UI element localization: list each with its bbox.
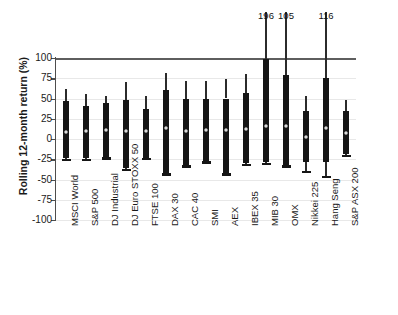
upper-whisker (345, 100, 346, 111)
minimum-cap (342, 155, 351, 157)
x-axis-label: Nikkei 225 (310, 182, 320, 226)
upper-whisker (105, 96, 106, 102)
mean-marker (344, 131, 348, 135)
minimum-cap (162, 173, 171, 175)
box (223, 99, 228, 174)
x-axis-label: MSCI World (70, 175, 80, 226)
y-axis-title: Rolling 12-month return (%) (17, 41, 29, 211)
box (123, 100, 128, 168)
box (283, 75, 288, 165)
upper-whisker (185, 81, 186, 100)
mean-marker (304, 135, 308, 139)
minimum-cap (302, 171, 311, 173)
x-axis-label: IBEX 35 (250, 191, 260, 226)
box (323, 78, 328, 161)
chart-container: Rolling 12-month return (%) 1007550250-2… (0, 0, 398, 315)
minimum-cap (222, 173, 231, 175)
mean-marker (264, 124, 268, 128)
box (143, 109, 148, 158)
minimum-cap (142, 158, 151, 160)
x-axis-label: MIB 30 (270, 196, 280, 226)
x-axis-label: S&P 500 (90, 189, 100, 226)
box (163, 90, 168, 173)
upper-whisker (245, 74, 246, 93)
upper-whisker (325, 12, 326, 78)
y-axis-tick-label: 75 (12, 73, 52, 83)
x-axis-label: CAC 40 (190, 193, 200, 226)
minimum-cap (242, 164, 251, 166)
y-axis-tick-label: 100 (12, 53, 52, 63)
minimum-cap (202, 161, 211, 163)
mean-marker (284, 124, 288, 128)
x-axis-label: AEX (230, 207, 240, 226)
mean-marker (84, 129, 88, 133)
y-axis-tick-label: 50 (12, 94, 52, 104)
x-axis-label: S&P ASX 200 (350, 168, 360, 226)
minimum-cap (82, 159, 91, 161)
mean-marker (64, 130, 68, 134)
minimum-cap (182, 165, 191, 167)
y-axis-tick-label: -25 (12, 154, 52, 164)
overflow-value-label: 116 (309, 10, 343, 21)
x-axis-label: DAX 30 (170, 193, 180, 226)
upper-whisker (285, 12, 286, 75)
minimum-cap (262, 163, 271, 165)
upper-whisker (125, 82, 126, 100)
upper-whisker (85, 94, 86, 106)
y-axis-tick-label: -75 (12, 195, 52, 205)
x-axis-label: Hang Seng (330, 178, 340, 226)
mean-marker (124, 129, 128, 133)
lower-whisker (325, 162, 326, 177)
x-axis-label: OMX (290, 204, 300, 226)
x-axis-label: FTSE 100 (150, 183, 160, 226)
y-axis-tick-label: 25 (12, 114, 52, 124)
upper-whisker (205, 81, 206, 100)
upper-whisker (145, 96, 146, 109)
minimum-cap (102, 157, 111, 159)
x-axis-label: DJ Industrial (110, 173, 120, 226)
y-axis-tick-label: -100 (12, 215, 52, 225)
box-whisker-item (216, 58, 236, 220)
upper-whisker (65, 89, 66, 101)
y-axis-tick-label: 0 (12, 134, 52, 144)
minimum-cap (62, 159, 71, 161)
minimum-cap (282, 165, 291, 167)
x-axis-label: SMI (210, 209, 220, 226)
y-axis-tick-label: -50 (12, 175, 52, 185)
upper-whisker (225, 79, 226, 98)
x-axis-label: DJ Euro STOXX 50 (130, 144, 140, 226)
overflow-value-label: 105 (269, 10, 303, 21)
box (263, 59, 268, 163)
upper-whisker (165, 73, 166, 90)
upper-whisker (305, 96, 306, 111)
mean-marker (144, 129, 148, 133)
mean-marker (184, 129, 188, 133)
